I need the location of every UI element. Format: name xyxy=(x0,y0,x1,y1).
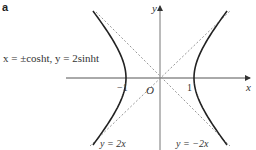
x-axis-label: x xyxy=(245,81,251,93)
asymptote-y-eq-neg-2x xyxy=(96,12,230,146)
equation-label: x = ±cosht, y = 2sinht xyxy=(3,52,99,64)
panel-label: a xyxy=(2,1,9,13)
asymptote-label-neg-2x: y = −2x xyxy=(175,138,209,149)
y-axis-label: y xyxy=(151,2,157,14)
hyperbola-diagram: a x = ±cosht, y = 2sinht y x O −1 1 y = … xyxy=(0,0,256,150)
tick-label-neg-1: −1 xyxy=(117,82,128,93)
asymptote-label-2x: y = 2x xyxy=(99,138,126,149)
tick-label-1: 1 xyxy=(187,82,192,93)
origin-label: O xyxy=(146,84,154,96)
